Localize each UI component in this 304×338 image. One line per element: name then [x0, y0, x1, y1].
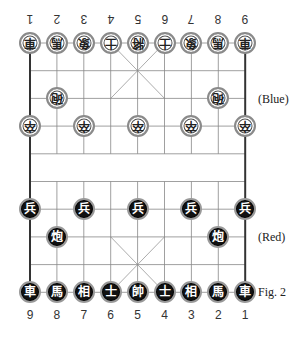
top-file-label: 9 [238, 12, 252, 26]
elephant-glyph: 象 [185, 37, 197, 49]
bottom-file-label: 3 [184, 308, 198, 322]
chariot-glyph: 車 [24, 37, 36, 49]
general-glyph: 帥 [132, 286, 144, 298]
advisor-glyph: 士 [159, 37, 171, 49]
blue-side-label: (Blue) [258, 92, 289, 107]
top-file-label: 2 [50, 12, 64, 26]
chariot-glyph: 車 [239, 286, 251, 298]
advisor-glyph: 士 [105, 37, 117, 49]
top-file-label: 3 [77, 12, 91, 26]
bottom-file-label: 5 [131, 308, 145, 322]
bottom-file-label: 9 [23, 308, 37, 322]
figure-caption: Fig. 2 [258, 285, 286, 300]
elephant-glyph: 相 [185, 286, 197, 298]
advisor-glyph: 士 [159, 286, 171, 298]
bottom-file-label: 8 [50, 308, 64, 322]
red-elephant-piece[interactable]: 相 [73, 281, 95, 303]
red-advisor-piece[interactable]: 士 [154, 281, 176, 303]
horse-glyph: 馬 [212, 286, 224, 298]
blue-soldier-piece[interactable]: 卒 [19, 115, 41, 137]
top-file-label: 5 [131, 12, 145, 26]
red-general-piece[interactable]: 帥 [127, 281, 149, 303]
horse-glyph: 馬 [212, 37, 224, 49]
blue-advisor-piece[interactable]: 士 [100, 32, 122, 54]
cannon-glyph: 炮 [51, 231, 63, 243]
soldier-glyph: 卒 [185, 120, 197, 132]
blue-horse-piece[interactable]: 馬 [46, 32, 68, 54]
bottom-file-label: 7 [77, 308, 91, 322]
top-file-label: 8 [211, 12, 225, 26]
top-file-label: 1 [23, 12, 37, 26]
general-glyph: 將 [132, 37, 144, 49]
blue-general-piece[interactable]: 將 [127, 32, 149, 54]
cannon-glyph: 砲 [212, 92, 224, 104]
red-soldier-piece[interactable]: 兵 [73, 198, 95, 220]
chariot-glyph: 車 [24, 286, 36, 298]
blue-chariot-piece[interactable]: 車 [19, 32, 41, 54]
soldier-glyph: 兵 [185, 203, 197, 215]
cannon-glyph: 砲 [51, 92, 63, 104]
soldier-glyph: 兵 [132, 203, 144, 215]
elephant-glyph: 相 [78, 286, 90, 298]
bottom-file-label: 4 [158, 308, 172, 322]
soldier-glyph: 兵 [78, 203, 90, 215]
blue-advisor-piece[interactable]: 士 [154, 32, 176, 54]
soldier-glyph: 卒 [132, 120, 144, 132]
bottom-file-label: 2 [211, 308, 225, 322]
chariot-glyph: 車 [239, 37, 251, 49]
soldier-glyph: 卒 [239, 120, 251, 132]
elephant-glyph: 象 [78, 37, 90, 49]
blue-elephant-piece[interactable]: 象 [73, 32, 95, 54]
soldier-glyph: 兵 [24, 203, 36, 215]
red-cannon-piece[interactable]: 炮 [46, 226, 68, 248]
red-soldier-piece[interactable]: 兵 [127, 198, 149, 220]
horse-glyph: 馬 [51, 286, 63, 298]
top-file-label: 6 [158, 12, 172, 26]
advisor-glyph: 士 [105, 286, 117, 298]
cannon-glyph: 炮 [212, 231, 224, 243]
soldier-glyph: 卒 [24, 120, 36, 132]
red-advisor-piece[interactable]: 士 [100, 281, 122, 303]
top-file-label: 4 [104, 12, 118, 26]
soldier-glyph: 卒 [78, 120, 90, 132]
top-file-label: 7 [184, 12, 198, 26]
red-side-label: (Red) [258, 230, 285, 245]
bottom-file-label: 1 [238, 308, 252, 322]
soldier-glyph: 兵 [239, 203, 251, 215]
horse-glyph: 馬 [51, 37, 63, 49]
bottom-file-label: 6 [104, 308, 118, 322]
blue-soldier-piece[interactable]: 卒 [73, 115, 95, 137]
blue-soldier-piece[interactable]: 卒 [127, 115, 149, 137]
